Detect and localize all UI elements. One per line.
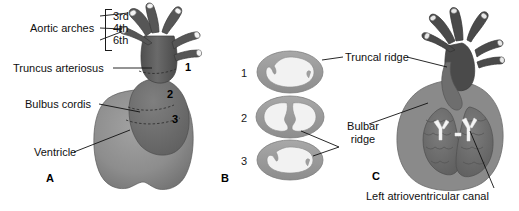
panel-c-illustration xyxy=(369,8,505,191)
arch-label-3rd: 3rd xyxy=(113,10,129,22)
section-number-2: 2 xyxy=(241,112,247,124)
truncus-arteriosus-label: Truncus arteriosus xyxy=(13,62,104,74)
panel-letter-c: C xyxy=(372,170,380,182)
arch-label-4th: 4th xyxy=(113,22,128,34)
bulbus-cordis-label: Bulbus cordis xyxy=(25,98,91,110)
aortic-arches-bracket xyxy=(105,9,112,51)
aortic-arches-group-label: Aortic arches xyxy=(30,22,94,34)
section-number-3: 3 xyxy=(241,155,247,167)
cross-section-1 xyxy=(257,51,323,93)
section-number-1: 1 xyxy=(241,67,247,79)
bulbar-ridge-label-line1: Bulbar xyxy=(347,120,379,132)
bulbar-ridge-label: Bulbar ridge xyxy=(341,120,385,146)
bulbar-ridge-label-line2: ridge xyxy=(351,133,375,145)
panel-letter-a: A xyxy=(46,172,54,184)
panel-b-illustration xyxy=(256,51,343,180)
panel-letter-b: B xyxy=(221,172,229,184)
panel-a-marker-2: 2 xyxy=(167,88,173,100)
panel-a-marker-1: 1 xyxy=(185,61,191,73)
cross-section-2 xyxy=(256,96,324,138)
anatomical-figure: Aortic arches 3rd 4th 6th Truncus arteri… xyxy=(0,0,519,211)
truncal-ridge-label: Truncal ridge xyxy=(345,51,409,63)
panel-a-marker-3: 3 xyxy=(172,113,178,125)
cross-section-3 xyxy=(257,140,323,180)
ventricle-label: Ventricle xyxy=(34,146,76,158)
left-atrioventricular-canal-label: Left atrioventricular canal xyxy=(366,190,489,202)
arch-label-6th: 6th xyxy=(113,34,128,46)
